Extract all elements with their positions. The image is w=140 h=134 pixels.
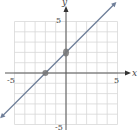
x-axis-arrow-icon <box>125 71 131 76</box>
x-intercept-point <box>42 70 48 76</box>
y-intercept-point <box>63 48 69 56</box>
x-axis-label: x <box>132 68 137 78</box>
coordinate-plane: -5 5 5 -5 x y <box>0 0 140 134</box>
y-min-label: -5 <box>55 123 63 132</box>
y-axis-label: y <box>61 0 68 7</box>
x-max-label: 5 <box>114 76 119 85</box>
y-max-label: 5 <box>56 16 61 25</box>
x-min-label: -5 <box>7 76 15 85</box>
